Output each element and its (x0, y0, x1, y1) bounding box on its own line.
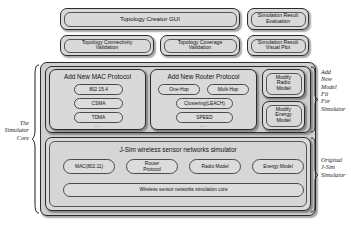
add-new-mac-protocol-group[interactable]: Add New MAC Protocol 802.15.4 CSMA TDMA … (49, 69, 146, 130)
jsim-simulator-title: J-Sim wireless sensor networks simulator (50, 146, 306, 153)
wireless-sensor-networks-simulation-core[interactable]: Wireless sensor networks simulation core (63, 183, 304, 197)
topology-coverage-validation-box[interactable]: Topology Coverage Validation (160, 35, 240, 56)
modify-energy-model-inner: Modify Energy Model (266, 105, 302, 127)
jsim-module-router-protocol[interactable]: Router Protocol (126, 159, 178, 174)
simulation-result-visual-plot-box[interactable]: Simulation Result Visual Plot (247, 35, 309, 56)
router-ellipsis: ... (151, 122, 256, 128)
simulator-core-brace (31, 64, 40, 214)
simulation-result-evaluation-box[interactable]: Simulation Result Evaluation (247, 8, 309, 30)
modify-radio-model-box[interactable]: Modify Radio Model (262, 69, 305, 98)
modify-energy-model-box[interactable]: Modify Energy Model (262, 101, 305, 130)
topology-connectivity-validation-box[interactable]: Topology Connectivity Validation (60, 35, 154, 56)
topology-connectivity-validation-label: Topology Connectivity Validation (65, 40, 150, 52)
mac-ellipsis: ... (50, 122, 145, 128)
add-new-model-brace (311, 66, 319, 133)
annotation-the-simulator-core: The Simulator Core (0, 119, 29, 141)
router-item-one-hop[interactable]: One-Hop (158, 84, 200, 95)
simulation-result-evaluation-label: Simulation Result Evaluation (252, 13, 305, 25)
router-item-multi-hop[interactable]: Multi-Hop (207, 84, 249, 95)
add-new-router-protocol-group[interactable]: Add New Router Protocol One-Hop Multi-Ho… (150, 69, 257, 130)
original-jsim-brace (311, 137, 319, 213)
topology-coverage-validation-inner: Topology Coverage Validation (164, 39, 237, 53)
jsim-module-mac-802-11[interactable]: MAC(802.11) (63, 159, 115, 174)
jsim-simulator-inner: J-Sim wireless sensor networks simulator… (49, 141, 307, 207)
modify-radio-model-inner: Modify Radio Model (266, 73, 302, 95)
simulation-result-visual-plot-label: Simulation Result Visual Plot (252, 40, 305, 52)
topology-coverage-validation-label: Topology Coverage Validation (165, 40, 236, 52)
jsim-module-radio-model[interactable]: Radio Model (189, 159, 241, 174)
add-new-mac-protocol-title: Add New MAC Protocol (50, 73, 145, 80)
topology-creator-gui-inner: Topology Creator GUI (64, 12, 237, 27)
jsim-simulator-box: J-Sim wireless sensor networks simulator… (45, 137, 311, 211)
mac-item-csma[interactable]: CSMA (74, 98, 123, 109)
topology-connectivity-validation-inner: Topology Connectivity Validation (64, 39, 151, 53)
modify-energy-model-label: Modify Energy Model (267, 107, 301, 124)
mac-item-802-15-4[interactable]: 802.15.4 (74, 84, 123, 95)
router-item-clustering-leach[interactable]: Clustering(LEACH) (176, 98, 233, 109)
topology-creator-gui-box[interactable]: Topology Creator GUI (60, 8, 240, 30)
add-new-router-protocol-title: Add New Router Protocol (151, 73, 256, 80)
modify-radio-model-label: Modify Radio Model (267, 75, 301, 92)
jsim-module-energy-model[interactable]: Energy Model (252, 159, 304, 174)
annotation-original-jsim-simulator: Original J-Sim Simulator (321, 156, 351, 178)
simulation-result-visual-plot-inner: Simulation Result Visual Plot (251, 39, 306, 53)
annotation-add-new-model-fit-for-simulator: Add New Model Fit For Simulator (321, 68, 351, 112)
simulation-result-evaluation-inner: Simulation Result Evaluation (251, 12, 306, 27)
topology-creator-gui-label: Topology Creator GUI (65, 16, 236, 23)
